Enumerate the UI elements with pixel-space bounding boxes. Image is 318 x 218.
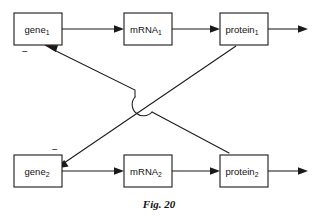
edge-mrna1-to-protein1 [172, 25, 220, 33]
arrowhead-icon [210, 25, 220, 33]
svg-text:mRNA1: mRNA1 [130, 24, 162, 36]
node-protein2[interactable]: protein2 [220, 155, 268, 187]
arrowhead-icon [114, 167, 124, 175]
node-protein2-subscript: 2 [255, 171, 259, 178]
node-mrna2-subscript: 2 [158, 171, 162, 178]
edge-mrna2-to-protein2 [172, 167, 220, 175]
node-mrna2[interactable]: mRNA2 [124, 155, 172, 187]
arrowhead-icon [298, 167, 308, 175]
arrowhead-icon [210, 167, 220, 175]
arrowhead-icon [114, 25, 124, 33]
edge-gene2-to-mrna2 [62, 167, 124, 175]
edge-protein1-output [268, 25, 308, 33]
figure-container: gene1 mRNA1 protein1 gene2 mRNA2 [0, 0, 318, 218]
node-gene2-label: gene [25, 166, 46, 177]
node-protein1-label: protein [226, 24, 255, 35]
node-mrna1-label: mRNA [130, 24, 159, 35]
figure-caption: Fig. 20 [142, 198, 176, 210]
node-protein1-subscript: 1 [255, 29, 259, 36]
svg-text:protein2: protein2 [226, 166, 259, 178]
node-gene1[interactable]: gene1 [14, 13, 62, 45]
edge-protein2-inhibits-gene1 [44, 45, 229, 153]
gene-regulation-diagram: gene1 mRNA1 protein1 gene2 mRNA2 [0, 0, 318, 218]
arrowhead-icon [44, 45, 58, 52]
svg-text:protein1: protein1 [226, 24, 259, 36]
node-protein2-label: protein [226, 166, 255, 177]
node-mrna1-subscript: 1 [158, 29, 162, 36]
svg-text:mRNA2: mRNA2 [130, 166, 162, 178]
node-gene1-label: gene [25, 24, 46, 35]
node-mrna1[interactable]: mRNA1 [124, 13, 172, 45]
minus-sign-gene1: − [22, 46, 28, 57]
node-gene1-subscript: 1 [46, 29, 50, 36]
node-gene2[interactable]: gene2 [14, 155, 62, 187]
node-protein1[interactable]: protein1 [220, 13, 268, 45]
node-mrna2-label: mRNA [130, 166, 159, 177]
edge-protein2-output [268, 167, 308, 175]
edge-gene1-to-mrna1 [62, 25, 124, 33]
node-gene2-subscript: 2 [46, 171, 50, 178]
minus-sign-gene2: − [52, 144, 58, 155]
arrowhead-icon [298, 25, 308, 33]
